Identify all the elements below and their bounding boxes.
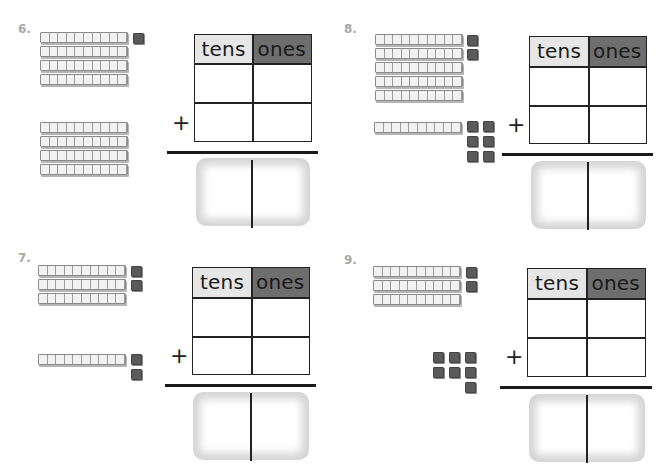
tens-rod: [40, 32, 128, 43]
tens-rod: [38, 293, 126, 304]
place-value-table: tens ones: [529, 36, 647, 144]
unit-cube: [467, 35, 478, 46]
tens-rod: [373, 280, 461, 291]
tens-rod: [375, 34, 463, 45]
tens-rod: [374, 122, 462, 133]
unit-cube: [483, 151, 494, 162]
tens-header: tens: [528, 269, 587, 298]
unit-cube: [466, 281, 477, 292]
problem-number: 7.: [18, 251, 31, 265]
tens-rod: [40, 60, 128, 71]
tens-rod: [373, 266, 461, 277]
ones-header: ones: [589, 37, 647, 66]
tens-header: tens: [195, 35, 253, 64]
answer-divider: [586, 395, 588, 463]
tens-rod: [40, 164, 128, 175]
unit-cube: [466, 267, 477, 278]
tens-rod: [375, 48, 463, 59]
unit-cube: [131, 354, 142, 365]
unit-cube: [465, 352, 476, 363]
tens-rod: [375, 90, 463, 101]
unit-cube: [483, 121, 494, 132]
column-divider: [252, 35, 254, 141]
sum-line: [502, 153, 653, 156]
column-divider: [586, 269, 588, 376]
answer-divider: [251, 160, 253, 228]
plus-sign: +: [170, 345, 188, 367]
ones-header: ones: [253, 35, 312, 64]
problem-number: 6.: [18, 22, 31, 36]
tens-rod: [40, 74, 128, 85]
unit-cube: [467, 121, 478, 132]
unit-cube: [465, 382, 476, 393]
tens-rod: [375, 76, 463, 87]
ones-header: ones: [252, 268, 310, 297]
tens-rod: [38, 265, 126, 276]
unit-cube: [449, 352, 460, 363]
answer-divider: [250, 393, 252, 461]
tens-rod: [38, 354, 126, 365]
sum-line: [165, 384, 316, 387]
unit-cube: [449, 367, 460, 378]
tens-rod: [375, 62, 463, 73]
problem-number: 9.: [344, 253, 357, 267]
tens-rod: [38, 279, 126, 290]
unit-cube: [131, 280, 142, 291]
column-divider: [588, 37, 590, 143]
unit-cube: [133, 33, 144, 44]
unit-cube: [467, 136, 478, 147]
unit-cube: [131, 266, 142, 277]
unit-cube: [467, 49, 478, 60]
unit-cube: [465, 367, 476, 378]
sum-line: [167, 151, 318, 154]
place-value-table: tens ones: [527, 268, 646, 377]
tens-header: tens: [530, 37, 589, 66]
ones-header: ones: [587, 269, 646, 298]
plus-sign: +: [172, 112, 190, 134]
answer-box[interactable]: [531, 161, 646, 229]
answer-box[interactable]: [196, 158, 310, 226]
sum-line: [500, 386, 652, 389]
unit-cube: [433, 352, 444, 363]
problem-number: 8.: [344, 22, 357, 36]
tens-rod: [40, 136, 128, 147]
unit-cube: [467, 151, 478, 162]
tens-rod: [373, 294, 461, 305]
tens-rod: [40, 150, 128, 161]
place-value-table: tens ones: [194, 34, 312, 142]
unit-cube: [483, 136, 494, 147]
unit-cube: [433, 367, 444, 378]
column-divider: [251, 268, 253, 374]
tens-header: tens: [193, 268, 252, 297]
tens-rod: [40, 122, 128, 133]
unit-cube: [131, 369, 142, 380]
answer-divider: [587, 162, 589, 230]
place-value-table: tens ones: [192, 267, 310, 375]
tens-rod: [40, 46, 128, 57]
plus-sign: +: [505, 346, 523, 368]
plus-sign: +: [507, 114, 525, 136]
